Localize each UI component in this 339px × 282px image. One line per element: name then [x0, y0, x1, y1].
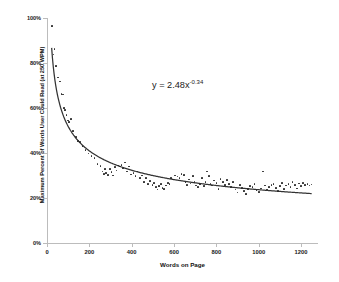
scatter-point: [133, 172, 135, 174]
scatter-point: [51, 25, 53, 27]
scatter-point: [111, 171, 113, 173]
scatter-point: [205, 181, 207, 183]
scatter-point: [279, 185, 281, 187]
scatter-point: [216, 182, 218, 184]
scatter-point: [160, 183, 162, 185]
scatter-point: [143, 181, 145, 183]
scatter-point: [169, 183, 171, 185]
scatter-point: [294, 184, 296, 186]
scatter-point: [147, 183, 149, 185]
chart-container: 0%20%40%60%80%100% 020040060080010001200…: [0, 0, 339, 282]
scatter-point: [183, 174, 185, 176]
scatter-point: [245, 193, 247, 195]
trendline: [0, 0, 339, 282]
scatter-point: [153, 182, 155, 184]
scatter-point: [241, 187, 243, 189]
scatter-point: [283, 188, 285, 190]
scatter-point: [275, 187, 277, 189]
scatter-point: [304, 184, 306, 186]
scatter-point: [155, 186, 157, 188]
scatter-point: [277, 190, 279, 192]
scatter-point: [72, 130, 74, 132]
scatter-point: [186, 184, 188, 186]
scatter-point: [258, 191, 260, 193]
scatter-point: [64, 109, 66, 111]
scatter-point: [104, 168, 106, 170]
scatter-point: [199, 183, 201, 185]
scatter-point: [107, 174, 109, 176]
scatter-point: [103, 173, 105, 175]
scatter-point: [145, 177, 147, 179]
scatter-point: [208, 175, 210, 177]
scatter-point: [281, 182, 283, 184]
scatter-point: [109, 168, 111, 170]
scatter-point: [243, 190, 245, 192]
scatter-point: [68, 121, 70, 123]
scatter-point: [192, 175, 194, 177]
scatter-point: [226, 179, 228, 181]
scatter-point: [222, 181, 224, 183]
scatter-point: [114, 166, 116, 168]
scatter-point: [288, 183, 290, 185]
scatter-point: [201, 177, 203, 179]
scatter-point: [100, 165, 102, 167]
scatter-point: [203, 185, 205, 187]
scatter-point: [70, 118, 72, 120]
scatter-point: [75, 136, 77, 138]
scatter-point: [247, 188, 249, 190]
scatter-point: [97, 163, 99, 165]
scatter-point: [228, 183, 230, 185]
scatter-point: [239, 184, 241, 186]
scatter-point: [224, 184, 226, 186]
scatter-point: [298, 183, 300, 185]
scatter-point: [139, 177, 141, 179]
scatter-point: [163, 188, 165, 190]
scatter-point: [79, 141, 81, 143]
scatter-point: [55, 65, 57, 67]
scatter-point: [197, 186, 199, 188]
